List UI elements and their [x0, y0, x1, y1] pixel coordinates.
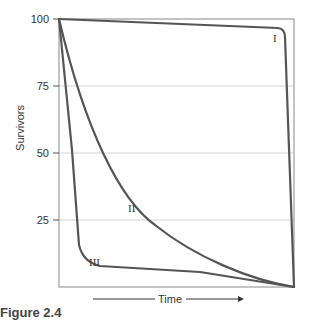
- y-tick-100: 100: [31, 13, 49, 25]
- y-tick-25: 25: [37, 214, 49, 226]
- figure-caption: Figure 2.4: [0, 305, 61, 320]
- x-axis-label: Time: [158, 293, 182, 305]
- y-tick-75: 75: [37, 80, 49, 92]
- y-ticks: [53, 19, 59, 220]
- y-tick-50: 50: [37, 147, 49, 159]
- curve-label-II: II: [128, 202, 136, 214]
- gridlines: [59, 86, 294, 220]
- curve-label-III: III: [89, 256, 100, 268]
- arrowhead-icon: [238, 296, 244, 302]
- curve-label-I: I: [273, 32, 277, 44]
- y-axis-label: Survivors: [14, 105, 26, 151]
